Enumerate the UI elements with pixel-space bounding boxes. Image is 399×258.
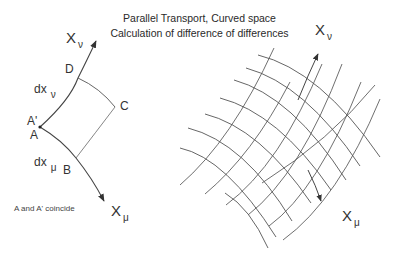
label-x-mu-left: Xμ <box>111 203 127 218</box>
curved-grid <box>0 0 399 258</box>
label-point-a-prime: A' <box>27 115 37 127</box>
label-dx-nu: dxν <box>34 83 52 95</box>
label-dx-mu: dxμ <box>34 156 52 168</box>
label-point-b: B <box>63 164 71 176</box>
grid-x-nu-arrow <box>298 54 318 100</box>
label-point-c: C <box>120 100 129 112</box>
label-point-d: D <box>65 63 74 75</box>
label-point-a: A <box>30 129 38 141</box>
label-x-nu-left: Xν <box>66 30 81 45</box>
label-x-mu-right: Xμ <box>342 208 358 223</box>
label-x-nu-right: Xν <box>315 22 330 37</box>
note-coincide: A and A' coincide <box>14 205 75 213</box>
